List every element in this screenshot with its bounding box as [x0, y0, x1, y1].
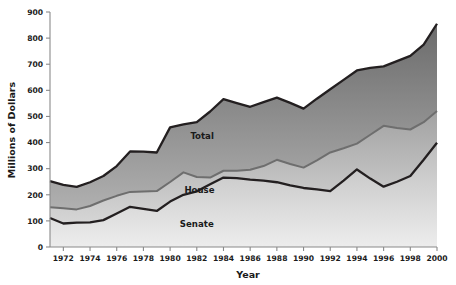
series-label-house: House — [184, 185, 214, 195]
y-tick-label-100: 100 — [27, 217, 43, 226]
x-tick-label-1986: 1986 — [240, 254, 261, 263]
y-tick-label-500: 500 — [27, 112, 43, 121]
x-axis-tick-labels: 1972197419761978198019821984198619881990… — [53, 254, 448, 263]
area-chart: 0100200300400500600700800900 19721974197… — [0, 0, 456, 285]
x-tick-label-1988: 1988 — [266, 254, 287, 263]
x-tick-label-1976: 1976 — [106, 254, 127, 263]
chart-container: 0100200300400500600700800900 19721974197… — [0, 0, 456, 285]
series-label-senate: Senate — [180, 219, 214, 229]
x-tick-label-1972: 1972 — [53, 254, 74, 263]
x-axis-title: Year — [235, 269, 260, 280]
x-tick-label-1974: 1974 — [79, 254, 100, 263]
x-tick-label-1998: 1998 — [400, 254, 421, 263]
plot-area-fills — [50, 24, 437, 247]
y-axis-ticks — [46, 12, 50, 247]
x-tick-label-1978: 1978 — [133, 254, 154, 263]
y-tick-label-600: 600 — [27, 86, 43, 95]
x-tick-label-1984: 1984 — [213, 254, 234, 263]
x-tick-label-2000: 2000 — [426, 254, 447, 263]
y-tick-label-400: 400 — [27, 138, 43, 147]
y-tick-label-200: 200 — [27, 191, 43, 200]
y-axis-tick-labels: 0100200300400500600700800900 — [27, 8, 43, 252]
x-tick-label-1994: 1994 — [346, 254, 367, 263]
y-axis-title: Millions of Dollars — [6, 81, 17, 178]
y-tick-label-900: 900 — [27, 8, 43, 17]
y-tick-label-800: 800 — [27, 34, 43, 43]
x-tick-label-1992: 1992 — [320, 254, 341, 263]
series-label-total: Total — [190, 131, 214, 141]
y-tick-label-0: 0 — [38, 243, 43, 252]
x-tick-label-1996: 1996 — [373, 254, 394, 263]
x-tick-label-1982: 1982 — [186, 254, 207, 263]
y-tick-label-700: 700 — [27, 60, 43, 69]
x-axis-ticks — [63, 247, 437, 251]
x-tick-label-1990: 1990 — [293, 254, 314, 263]
x-tick-label-1980: 1980 — [160, 254, 181, 263]
y-tick-label-300: 300 — [27, 164, 43, 173]
